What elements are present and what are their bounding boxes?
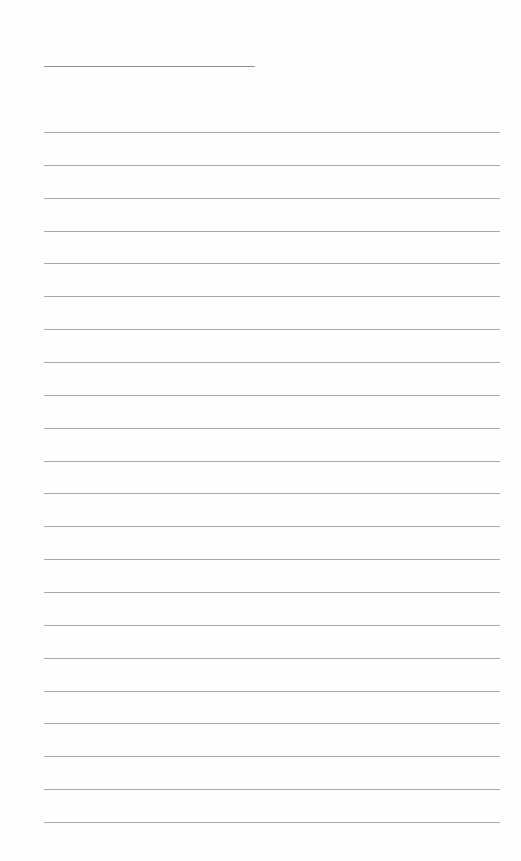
- header-name-line: [44, 66, 255, 67]
- ruled-line: [44, 625, 500, 626]
- ruled-line: [44, 198, 500, 199]
- ruled-line: [44, 592, 500, 593]
- ruled-line: [44, 493, 500, 494]
- ruled-line: [44, 395, 500, 396]
- ruled-line: [44, 263, 500, 264]
- ruled-line: [44, 789, 500, 790]
- ruled-line: [44, 231, 500, 232]
- ruled-line: [44, 822, 500, 823]
- ruled-line: [44, 165, 500, 166]
- ruled-line: [44, 756, 500, 757]
- ruled-line: [44, 691, 500, 692]
- lined-paper-page: [0, 0, 521, 861]
- ruled-line: [44, 362, 500, 363]
- ruled-line: [44, 428, 500, 429]
- ruled-line: [44, 723, 500, 724]
- ruled-line: [44, 526, 500, 527]
- ruled-line: [44, 296, 500, 297]
- ruled-line: [44, 329, 500, 330]
- ruled-line: [44, 132, 500, 133]
- ruled-line: [44, 658, 500, 659]
- ruled-line: [44, 559, 500, 560]
- ruled-line: [44, 461, 500, 462]
